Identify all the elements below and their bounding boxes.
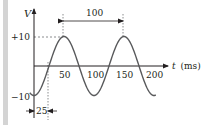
period-label: 100 — [86, 8, 103, 18]
offset-label: 25 — [36, 106, 48, 116]
x-tick-100: 100 — [87, 70, 104, 80]
x-tick-200: 200 — [146, 70, 163, 80]
x-tick-50: 50 — [59, 70, 71, 80]
y-tick-minus10: −10 — [11, 92, 30, 102]
y-tick-plus10: +10 — [11, 32, 30, 42]
x-axis-label: t (ms) — [172, 61, 201, 71]
sine-wave-chart: V +10 −10 50 100 150 200 t (ms) 100 25 — [0, 0, 202, 125]
x-axis-variable: t — [172, 61, 176, 71]
y-axis-label: V — [24, 8, 33, 19]
x-axis-unit: (ms) — [181, 61, 201, 71]
x-tick-150: 150 — [116, 70, 133, 80]
